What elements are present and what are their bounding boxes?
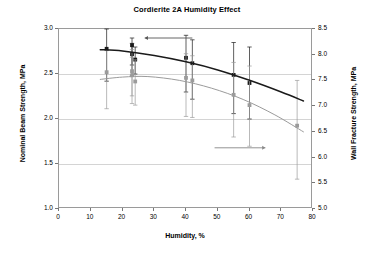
y-axis-right-tickmark xyxy=(312,79,315,80)
y-axis-left-tick-label: 1.0 xyxy=(29,204,53,211)
x-axis-tickmark xyxy=(122,208,123,211)
y-axis-right-tick-label: 7.5 xyxy=(318,75,342,82)
x-axis-tickmark xyxy=(217,208,218,211)
y-axis-right-tickmark xyxy=(312,54,315,55)
y-axis-right-tickmark xyxy=(312,131,315,132)
y-axis-left-tick-label: 1.5 xyxy=(29,159,53,166)
left-axis-arrow xyxy=(145,36,193,40)
x-axis-tick-label: 40 xyxy=(173,213,197,220)
data-point-marker xyxy=(105,70,109,74)
plot-area xyxy=(58,28,312,208)
y-axis-right-tick-label: 5.5 xyxy=(318,178,342,185)
chart-title: Cordierite 2A Humidity Effect xyxy=(0,5,374,14)
data-point-marker xyxy=(248,103,252,107)
x-axis-tick-label: 50 xyxy=(205,213,229,220)
data-point-marker xyxy=(190,79,194,83)
y-axis-left-tickmark xyxy=(55,163,58,164)
data-layer xyxy=(59,29,313,209)
x-axis-tickmark xyxy=(280,208,281,211)
x-axis-tickmark xyxy=(153,208,154,211)
x-axis-tick-label: 30 xyxy=(141,213,165,220)
chart-container: Cordierite 2A Humidity Effect Nominal Be… xyxy=(0,0,374,253)
arrow-head xyxy=(262,146,265,150)
data-point-marker xyxy=(184,76,188,80)
fit-curve xyxy=(100,76,303,132)
y-axis-right-tickmark xyxy=(312,157,315,158)
y-axis-right-tick-label: 7.0 xyxy=(318,101,342,108)
y-axis-right-tickmark xyxy=(312,105,315,106)
y-axis-right-tick-label: 8.0 xyxy=(318,50,342,57)
data-point-marker xyxy=(130,43,134,47)
y-axis-right-title: Wall Fracture Strength, MPa xyxy=(350,39,357,189)
x-axis-tick-label: 10 xyxy=(78,213,102,220)
x-axis-tickmark xyxy=(249,208,250,211)
y-axis-left-tickmark xyxy=(55,73,58,74)
x-axis-tickmark xyxy=(90,208,91,211)
x-axis-tickmark xyxy=(185,208,186,211)
data-point-marker xyxy=(130,69,134,73)
y-axis-right-tick-label: 6.0 xyxy=(318,153,342,160)
x-axis-tick-label: 70 xyxy=(268,213,292,220)
x-axis-tickmark xyxy=(312,208,313,211)
x-axis-tick-label: 80 xyxy=(300,213,324,220)
y-axis-left-tick-label: 2.0 xyxy=(29,114,53,121)
right-axis-arrow xyxy=(215,146,266,150)
y-axis-right-tickmark xyxy=(312,28,315,29)
y-axis-left-tick-label: 3.0 xyxy=(29,24,53,31)
data-point-marker xyxy=(133,80,137,84)
x-axis-tick-label: 20 xyxy=(110,213,134,220)
x-axis-tickmark xyxy=(58,208,59,211)
y-axis-right-tick-label: 8.5 xyxy=(318,24,342,31)
y-axis-left-tickmark xyxy=(55,118,58,119)
y-axis-left-title: Nominal Beam Strength, MPa xyxy=(19,44,26,184)
x-axis-tick-label: 0 xyxy=(46,213,70,220)
y-axis-left-tick-label: 2.5 xyxy=(29,69,53,76)
y-axis-right-tickmark xyxy=(312,182,315,183)
arrow-head xyxy=(145,36,148,40)
y-axis-right-tick-label: 5.0 xyxy=(318,204,342,211)
x-axis-tick-label: 60 xyxy=(237,213,261,220)
x-axis-title: Humidity, % xyxy=(58,232,312,239)
y-axis-left-tickmark xyxy=(55,28,58,29)
y-axis-right-tick-label: 6.5 xyxy=(318,127,342,134)
series-wall-fracture-strength xyxy=(104,50,299,180)
